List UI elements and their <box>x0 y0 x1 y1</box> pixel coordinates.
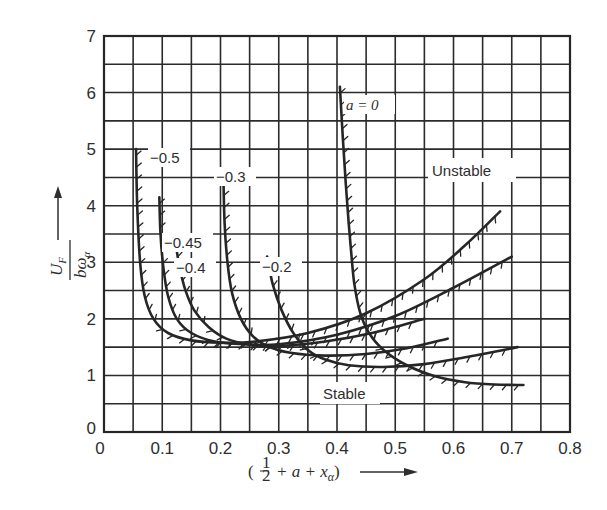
stable-label: Stable <box>323 385 366 402</box>
stability-curve <box>223 177 447 355</box>
x-label-expression: + a + xα) <box>276 462 340 484</box>
curve-label: a = 0 <box>346 97 379 113</box>
x-axis-ticks: 00.10.20.30.40.50.60.70.8 <box>95 439 582 458</box>
y-tick-label: 1 <box>87 366 96 385</box>
x-tick-label: 0.2 <box>209 439 233 458</box>
x-label-half-den: 2 <box>262 466 271 485</box>
x-axis-arrow-icon <box>360 468 418 476</box>
y-tick-label: 0 <box>87 419 96 438</box>
curve-label: −0.2 <box>262 258 292 275</box>
curve-label: −0.3 <box>216 168 246 185</box>
y-tick-label: 5 <box>87 140 96 159</box>
hatch-marks <box>340 89 518 390</box>
y-label-numerator: UF <box>47 257 68 276</box>
x-tick-label: 0.7 <box>500 439 524 458</box>
x-tick-label: 0.1 <box>150 439 174 458</box>
y-axis-arrow-icon <box>54 186 62 240</box>
y-tick-label: 7 <box>87 27 96 46</box>
stability-curve <box>340 87 523 385</box>
x-tick-label: 0.4 <box>325 439 349 458</box>
curve-label: −0.5 <box>150 149 180 166</box>
curve-label: −0.4 <box>176 259 206 276</box>
y-label-denominator: bωα <box>71 251 92 278</box>
y-axis-label: UF bωα <box>47 240 92 280</box>
y-tick-label: 2 <box>87 310 96 329</box>
x-tick-label: 0.8 <box>558 439 582 458</box>
y-tick-label: 6 <box>87 84 96 103</box>
x-tick-label: 0.6 <box>442 439 466 458</box>
x-tick-label: 0 <box>95 439 104 458</box>
hatch-marks <box>224 179 437 360</box>
curve-label: −0.45 <box>164 234 202 251</box>
curve-labels: −0.5−0.45−0.4−0.3−0.2a = 0 <box>148 95 395 277</box>
x-tick-label: 0.5 <box>383 439 407 458</box>
stability-boundary-chart: 00.10.20.30.40.50.60.70.8 01234567 −0.5−… <box>0 0 607 510</box>
y-tick-label: 4 <box>87 197 96 216</box>
y-axis-ticks: 01234567 <box>87 27 96 438</box>
x-label-paren-open: ( <box>248 462 254 481</box>
unstable-label: Unstable <box>432 162 491 179</box>
